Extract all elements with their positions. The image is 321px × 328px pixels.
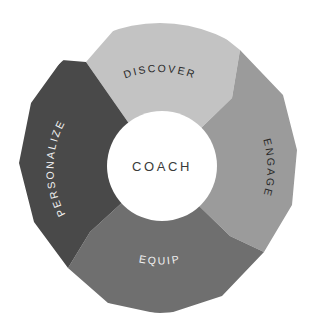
- coach-cycle-diagram: DISCOVER ENGAGE EQUIP PERSONALIZE COACH: [0, 0, 321, 328]
- wheel-svg: DISCOVER ENGAGE EQUIP PERSONALIZE COACH: [0, 0, 321, 328]
- hub-label: COACH: [132, 159, 192, 174]
